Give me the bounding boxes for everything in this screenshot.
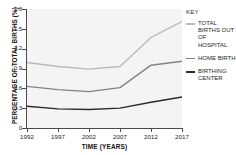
x-axis-tick-label: 2002 [74,133,104,140]
y-axis-title: PERCENTAGE OF TOTAL BIRTHS (%) [11,6,18,126]
x-axis-line [26,128,183,129]
x-axis-tick-label: 2007 [105,133,135,140]
legend-item-label: TOTAL BIRTHS OUT OF HOSPITAL [198,20,236,49]
legend: KEY TOTAL BIRTHS OUT OF HOSPITALHOME BIR… [186,9,236,88]
series-line [27,97,182,110]
y-axis-tick-label: 0 [2,125,22,131]
x-axis-tick-label: 2017 [167,133,197,140]
x-axis-tick [89,128,90,132]
legend-swatch-icon [186,23,195,25]
legend-swatch-icon [186,71,195,73]
series-group [27,9,182,128]
x-axis-tick [58,128,59,132]
x-axis-tick [151,128,152,132]
y-axis-tick [22,108,27,109]
legend-item[interactable]: BIRTHING CENTER [186,68,236,82]
legend-title: KEY [186,9,236,15]
x-axis-tick-label: 2012 [136,133,166,140]
legend-item-label: BIRTHING CENTER [198,68,236,82]
line-chart: 00.30.60.91.21.51.8 PERCENTAGE OF TOTAL … [0,0,236,155]
x-axis-tick-label: 1992 [12,133,42,140]
y-axis-tick [22,9,27,10]
y-axis-tick [22,88,27,89]
legend-item[interactable]: TOTAL BIRTHS OUT OF HOSPITAL [186,20,236,49]
legend-swatch-icon [186,58,195,60]
y-axis-tick [22,29,27,30]
x-axis-title: TIME (YEARS) [27,143,182,150]
x-axis-tick [120,128,121,132]
x-axis-tick [27,128,28,132]
series-line [27,22,182,70]
legend-item[interactable]: HOME BIRTH [186,55,236,62]
x-axis-tick-label: 1997 [43,133,73,140]
legend-item-label: HOME BIRTH [198,55,236,62]
y-axis-tick [22,69,27,70]
x-axis-tick [182,128,183,132]
y-axis-tick [22,49,27,50]
